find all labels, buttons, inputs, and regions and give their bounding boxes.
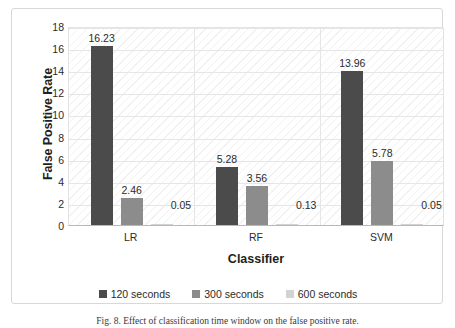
bar-value-label: 5.28 [210, 154, 244, 165]
y-tick-label: 4 [38, 177, 64, 187]
y-tick-label: 18 [38, 22, 64, 32]
x-tick-label: RF [193, 231, 318, 243]
bar [246, 186, 268, 225]
legend-swatch [192, 290, 200, 298]
legend-item: 600 seconds [286, 288, 358, 300]
y-tick-label: 10 [38, 110, 64, 120]
bar-value-label: 13.96 [335, 58, 369, 69]
y-tick-label: 16 [38, 44, 64, 54]
legend-label: 600 seconds [298, 288, 358, 300]
bar-group: 13.965.780.05 [320, 28, 444, 225]
bar [216, 167, 238, 225]
bar [276, 224, 298, 225]
bar-value-label: 2.46 [115, 185, 149, 196]
bar-value-label: 16.23 [85, 33, 119, 44]
bar-value-label: 5.78 [365, 148, 399, 159]
bar [151, 224, 173, 225]
legend-item: 120 seconds [99, 288, 171, 300]
legend-label: 300 seconds [204, 288, 264, 300]
legend-swatch [99, 290, 107, 298]
bar-value-label: 0.05 [421, 200, 444, 211]
legend-item: 300 seconds [192, 288, 264, 300]
legend-swatch [286, 290, 294, 298]
x-axis-tick-labels: LRRFSVM [68, 231, 444, 247]
legend-label: 120 seconds [111, 288, 171, 300]
y-tick-label: 14 [38, 66, 64, 76]
x-axis-title: Classifier [68, 252, 444, 266]
x-tick-label: SVM [319, 231, 444, 243]
y-tick-label: 8 [38, 133, 64, 143]
y-tick-label: 12 [38, 88, 64, 98]
figure: False Positive Rate 024681012141618 16.2… [0, 0, 455, 328]
y-tick-label: 6 [38, 155, 64, 165]
bar [341, 71, 363, 225]
x-tick-label: LR [68, 231, 193, 243]
y-tick-label: 2 [38, 199, 64, 209]
bar-group: 16.232.460.05 [69, 28, 194, 225]
plot-area: 16.232.460.055.283.560.1313.965.780.05 [68, 27, 444, 226]
figure-caption: Fig. 8. Effect of classification time wi… [0, 316, 455, 326]
chart-frame: False Positive Rate 024681012141618 16.2… [11, 8, 443, 304]
y-tick-label: 0 [38, 221, 64, 231]
bar [371, 161, 393, 225]
y-axis-tick-labels: 024681012141618 [38, 27, 64, 226]
bar [401, 224, 423, 225]
bar [121, 198, 143, 225]
bar [91, 46, 113, 225]
bar-value-label: 3.56 [240, 173, 274, 184]
chart-legend: 120 seconds300 seconds600 seconds [12, 288, 444, 300]
bar-group: 5.283.560.13 [194, 28, 319, 225]
